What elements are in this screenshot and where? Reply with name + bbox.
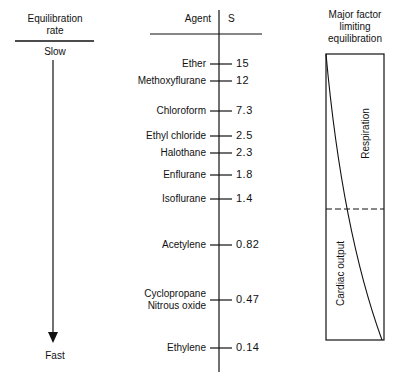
diagram-lines [0,0,399,384]
